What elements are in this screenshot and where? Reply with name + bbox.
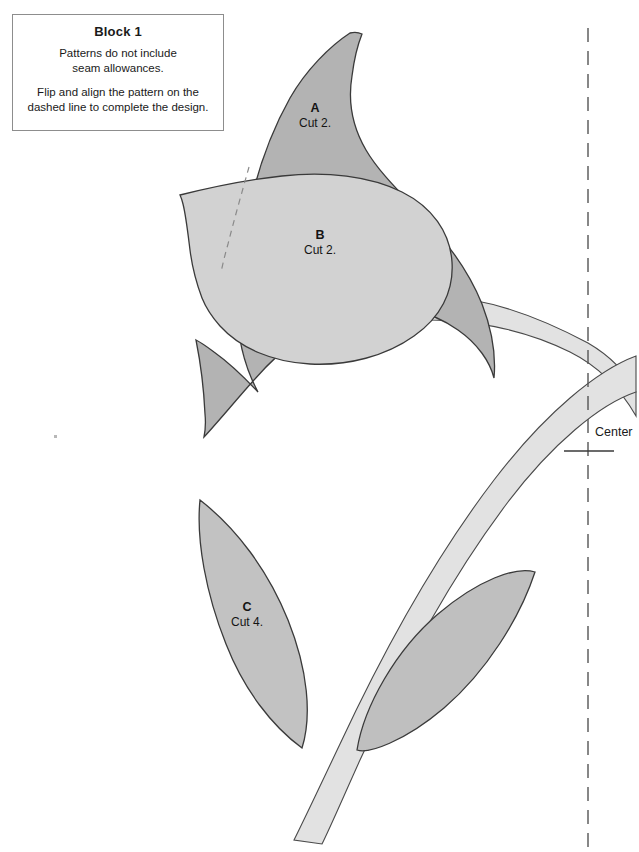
block-title: Block 1 xyxy=(21,25,215,39)
center-line-label: Center xyxy=(595,425,633,439)
pattern-sheet: Block 1 Patterns do not include seam all… xyxy=(0,0,639,852)
piece-c-left-leaf-shape xyxy=(199,500,307,748)
instruction-line: Patterns do not include xyxy=(21,46,215,61)
instruction-box: Block 1 Patterns do not include seam all… xyxy=(12,14,224,131)
piece-b-shape xyxy=(180,174,452,364)
stray-dot xyxy=(54,435,57,438)
instruction-paragraph-1: Patterns do not include seam allowances. xyxy=(21,46,215,76)
instruction-line: Flip and align the pattern on the xyxy=(21,85,215,100)
instruction-line: dashed line to complete the design. xyxy=(21,100,215,115)
instruction-line: seam allowances. xyxy=(21,61,215,76)
instruction-paragraph-2: Flip and align the pattern on the dashed… xyxy=(21,85,215,115)
